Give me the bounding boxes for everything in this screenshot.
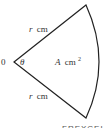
upper-radius-unit: cm [37,24,48,34]
angle-label: θ [20,57,25,67]
area-label: A cm 2 [54,56,81,67]
lower-radius-label: r cm [29,91,48,101]
watermark-text: FREXCEL [62,124,106,128]
area-exponent: 2 [78,56,81,62]
area-var: A [54,57,61,67]
sector-diagram: 0 θ r cm r cm A cm 2 FREXCEL [0,0,108,128]
lower-radius-unit: cm [37,91,48,101]
center-label: 0 [1,57,6,67]
lower-radius-var: r [29,91,33,101]
upper-radius-var: r [29,24,33,34]
upper-radius-label: r cm [29,24,48,34]
area-unit: cm [65,57,76,67]
